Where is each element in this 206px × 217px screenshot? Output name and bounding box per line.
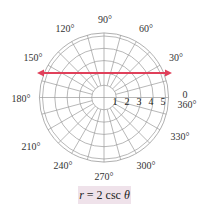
grid-spoke	[115, 104, 160, 130]
left-arrowhead-icon	[37, 69, 44, 76]
equation-theta: θ	[124, 188, 130, 203]
equation-caption: r = 2 csc θ	[78, 186, 131, 204]
grid-spoke	[110, 42, 136, 87]
angle-label-360: 360°	[178, 99, 197, 110]
angle-label-300: 300°	[137, 160, 156, 171]
grid-spoke	[58, 52, 95, 89]
polar-graph: 90° 120° 60° 150° 30° 180° 0 360° 210° 3…	[0, 0, 206, 217]
angle-label-60: 60°	[139, 23, 153, 34]
angle-label-270: 270°	[95, 171, 114, 182]
angle-label-210: 210°	[22, 141, 41, 152]
radius-label-4: 4	[149, 96, 154, 107]
equation-body: = 2 csc	[84, 188, 124, 203]
radius-label-5: 5	[161, 96, 166, 107]
angle-label-330: 330°	[171, 131, 190, 142]
grid-spoke	[58, 106, 95, 143]
angle-label-120: 120°	[56, 23, 75, 34]
grid-spoke	[72, 42, 98, 87]
grid-spoke	[110, 108, 136, 153]
grid-spoke	[113, 106, 150, 143]
angle-label-180: 180°	[12, 93, 31, 104]
angle-label-30: 30°	[169, 52, 183, 63]
radius-label-3: 3	[137, 96, 142, 107]
grid-spoke	[48, 65, 93, 91]
angle-label-90: 90°	[98, 14, 112, 25]
right-arrowhead-icon	[165, 69, 172, 76]
angle-label-150: 150°	[24, 52, 43, 63]
grid-spoke	[113, 52, 150, 89]
grid-spoke	[48, 104, 93, 130]
angle-label-240: 240°	[54, 160, 73, 171]
grid-spoke	[72, 108, 98, 153]
radius-label-2: 2	[125, 96, 130, 107]
radius-label-1: 1	[113, 96, 118, 107]
grid-spoke	[115, 65, 160, 91]
